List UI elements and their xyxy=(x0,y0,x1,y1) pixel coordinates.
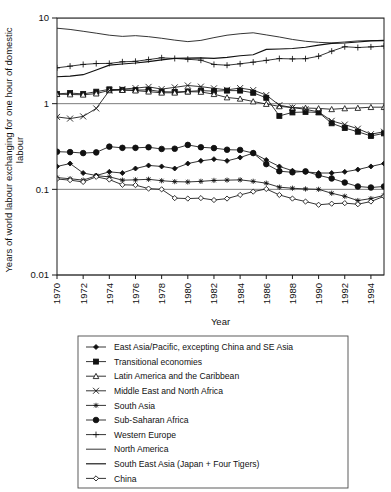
x-tick-label: 1978 xyxy=(156,283,167,304)
top-margin-mask xyxy=(0,0,391,18)
series-north-america xyxy=(57,28,384,43)
chart-figure: 1010.10.01197019721974197619781980198219… xyxy=(0,0,391,492)
x-tick-label: 1980 xyxy=(182,283,193,304)
x-tick-label: 1990 xyxy=(313,283,324,304)
plot-frame xyxy=(57,18,384,275)
series-south-east-asia-japan-four-tigers xyxy=(57,40,384,76)
legend-item-label: Latin America and the Caribbean xyxy=(114,371,239,381)
legend-item-label: Middle East and North Africa xyxy=(114,386,223,396)
series-south-asia xyxy=(54,173,386,203)
y-tick-label: 1 xyxy=(44,98,49,109)
x-tick-label: 1970 xyxy=(51,283,62,304)
x-axis-title: Year xyxy=(211,316,230,327)
x-tick-label: 1972 xyxy=(78,283,89,304)
y-axis-title: labour xyxy=(14,137,25,163)
x-tick-label: 1988 xyxy=(287,283,298,304)
line-chart: 1010.10.01197019721974197619781980198219… xyxy=(0,0,391,492)
x-tick-label: 1992 xyxy=(339,283,350,304)
legend-item-east-asia-pacific-excepting-china-and-se-asia[interactable]: East Asia/Pacific, excepting China and S… xyxy=(86,342,293,352)
y-tick-label: 0.1 xyxy=(36,184,49,195)
legend-item-label: Sub-Saharan Africa xyxy=(114,415,189,425)
y-tick-label: 10 xyxy=(38,12,49,23)
x-tick-label: 1976 xyxy=(130,283,141,304)
legend-item-label: South East Asia (Japan + Four Tigers) xyxy=(114,459,260,469)
legend-item-label: East Asia/Pacific, excepting China and S… xyxy=(114,342,293,352)
x-tick-label: 1994 xyxy=(365,283,376,304)
y-tick-label: 0.01 xyxy=(31,269,50,280)
series-transitional-economies xyxy=(55,87,387,139)
series-china xyxy=(54,174,386,207)
x-tick-label: 1982 xyxy=(208,283,219,304)
series-east-asia-pacific-excepting-china-and-se-asia xyxy=(55,151,387,178)
x-tick-label: 1986 xyxy=(261,283,272,304)
legend-item-label: Transitional economies xyxy=(114,357,202,367)
y-axis-title: Years of world labour exchanging for one… xyxy=(3,27,14,272)
series-sub-saharan-africa xyxy=(54,142,387,190)
legend-item-label: South Asia xyxy=(114,401,155,411)
legend-item-label: Western Europe xyxy=(114,430,176,440)
legend-item-label: North America xyxy=(114,444,169,454)
legend-item-label: China xyxy=(114,474,137,484)
x-tick-label: 1974 xyxy=(104,283,115,304)
x-tick-label: 1984 xyxy=(235,283,246,304)
